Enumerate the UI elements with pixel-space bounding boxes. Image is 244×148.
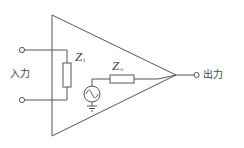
output-terminal [194,72,199,77]
output-label: 出力 [203,70,223,80]
input-terminal-bottom [19,97,24,102]
zi-resistor [63,63,71,87]
zo-resistor [110,75,134,83]
input-terminal-top [19,47,24,52]
input-label: 入力 [10,69,30,79]
amplifier-circuit-diagram: 入力 出力 Zi Zo [0,0,244,148]
zo-label: Zo [112,59,123,72]
zi-label: Zi [75,50,85,63]
